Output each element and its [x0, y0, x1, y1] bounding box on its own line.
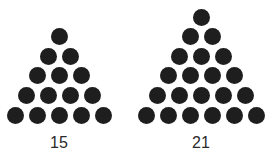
dot	[84, 87, 101, 104]
dot	[204, 107, 221, 124]
dot	[215, 48, 232, 65]
dot	[215, 87, 232, 104]
dot	[40, 87, 57, 104]
dot	[182, 67, 199, 84]
dot	[193, 48, 210, 65]
dot	[149, 87, 166, 104]
dot	[171, 48, 188, 65]
dot	[51, 67, 68, 84]
dot	[226, 67, 243, 84]
dot	[160, 67, 177, 84]
dot	[51, 28, 68, 45]
dot	[7, 107, 24, 124]
dot	[40, 48, 57, 65]
dot	[62, 48, 79, 65]
dot	[51, 107, 68, 124]
dot	[204, 28, 221, 45]
count-label-15: 15	[39, 134, 79, 152]
dot	[193, 87, 210, 104]
dot	[226, 107, 243, 124]
dot	[95, 107, 112, 124]
dot	[193, 9, 210, 26]
dot	[138, 107, 155, 124]
dot	[29, 67, 46, 84]
count-label-21: 21	[181, 134, 221, 152]
dot	[29, 107, 46, 124]
dot	[248, 107, 265, 124]
dot	[204, 67, 221, 84]
dot	[237, 87, 254, 104]
dot	[73, 67, 90, 84]
dot	[182, 107, 199, 124]
dot	[182, 28, 199, 45]
dot	[73, 107, 90, 124]
dot	[18, 87, 35, 104]
dot	[171, 87, 188, 104]
dot	[160, 107, 177, 124]
dot	[62, 87, 79, 104]
